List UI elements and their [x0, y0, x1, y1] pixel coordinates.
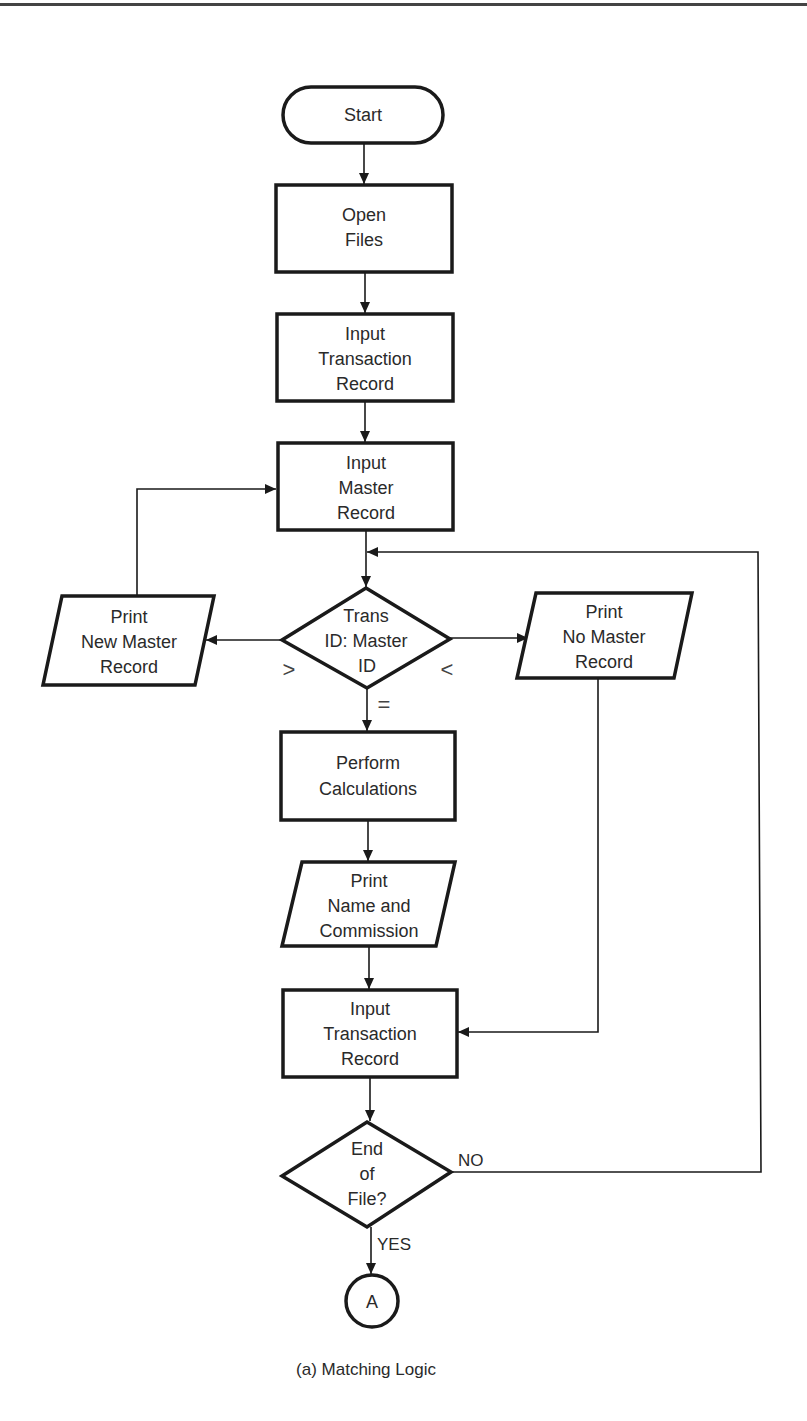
- input-trans2-line-1: Input: [350, 999, 390, 1019]
- input-master-record-process: Input Master Record: [278, 443, 453, 530]
- perform-calculations-process: Perform Calculations: [281, 732, 455, 820]
- greater-than-label: >: [283, 657, 296, 682]
- compare-line-3: ID: [358, 656, 376, 676]
- print-new-master-line-3: Record: [100, 657, 158, 677]
- connector-a: A: [346, 1275, 398, 1327]
- eof-line-3: File?: [347, 1189, 386, 1209]
- edge-print-new-master-loop: [137, 489, 276, 596]
- edge-print-no-master-input-trans2: [458, 678, 598, 1032]
- compare-ids-decision: Trans ID: Master ID: [282, 588, 450, 688]
- input-trans1-line-2: Transaction: [318, 349, 411, 369]
- print-no-master-line-1: Print: [585, 602, 622, 622]
- print-name-line-3: Commission: [319, 921, 418, 941]
- print-new-master-record-io: Print New Master Record: [43, 596, 214, 685]
- compare-line-1: Trans: [343, 606, 388, 626]
- start-terminal: Start: [283, 87, 443, 143]
- print-name-commission-io: Print Name and Commission: [282, 862, 455, 946]
- connector-a-label: A: [366, 1292, 378, 1312]
- input-transaction-record-process-2: Input Transaction Record: [283, 990, 457, 1077]
- flowchart-matching-logic: Start Open Files Input Transaction Recor…: [0, 0, 807, 1421]
- start-label: Start: [344, 105, 382, 125]
- print-no-master-line-3: Record: [575, 652, 633, 672]
- input-trans1-line-1: Input: [345, 324, 385, 344]
- input-master-line-3: Record: [337, 503, 395, 523]
- open-files-process: Open Files: [276, 185, 452, 272]
- input-trans2-line-3: Record: [341, 1049, 399, 1069]
- input-trans1-line-3: Record: [336, 374, 394, 394]
- less-than-label: <: [441, 657, 454, 682]
- eof-line-1: End: [351, 1139, 383, 1159]
- equal-label: =: [378, 692, 391, 717]
- perform-line-2: Calculations: [319, 779, 417, 799]
- compare-line-2: ID: Master: [324, 631, 407, 651]
- eof-line-2: of: [359, 1164, 375, 1184]
- input-transaction-record-process-1: Input Transaction Record: [277, 314, 453, 401]
- print-name-line-1: Print: [350, 871, 387, 891]
- print-name-line-2: Name and: [327, 896, 410, 916]
- print-no-master-line-2: No Master: [562, 627, 645, 647]
- no-label: NO: [458, 1151, 484, 1170]
- open-files-line-1: Open: [342, 205, 386, 225]
- perform-line-1: Perform: [336, 753, 400, 773]
- figure-caption: (a) Matching Logic: [296, 1360, 436, 1379]
- print-new-master-line-1: Print: [110, 607, 147, 627]
- input-master-line-2: Master: [338, 478, 393, 498]
- open-files-line-2: Files: [345, 230, 383, 250]
- input-master-line-1: Input: [346, 453, 386, 473]
- print-no-master-record-io: Print No Master Record: [517, 593, 692, 678]
- input-trans2-line-2: Transaction: [323, 1024, 416, 1044]
- print-new-master-line-2: New Master: [81, 632, 177, 652]
- end-of-file-decision: End of File?: [282, 1122, 451, 1227]
- yes-label: YES: [377, 1235, 411, 1254]
